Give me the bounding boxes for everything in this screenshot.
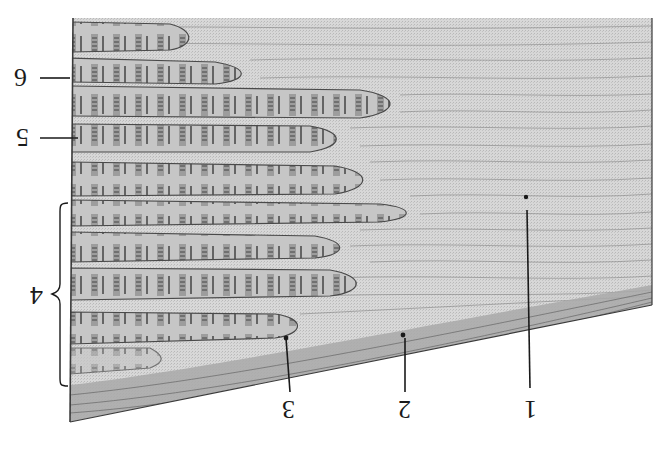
label-4: 4 [30, 282, 43, 308]
label-3: 3 [282, 396, 295, 422]
muscle-fiber [70, 58, 241, 84]
muscle-fiber [70, 162, 363, 196]
label-2: 2 [398, 396, 411, 422]
label-6: 6 [14, 64, 27, 90]
muscle-fiber [70, 86, 390, 118]
muscle-fiber [70, 124, 336, 152]
label-1: 1 [524, 396, 537, 422]
muscle-fiber [70, 268, 356, 300]
muscle-fiber [70, 200, 406, 226]
muscle-fiber [70, 22, 189, 52]
muscle-fiber [70, 232, 340, 262]
brace-4 [52, 203, 68, 386]
myotendinous-junction-illustration [0, 0, 672, 452]
label-5: 5 [16, 124, 29, 150]
